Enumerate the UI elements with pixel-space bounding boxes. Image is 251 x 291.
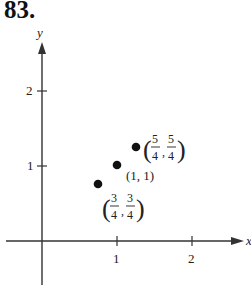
svg-text:): ) — [136, 194, 145, 223]
data-point-5-4 — [132, 143, 141, 152]
svg-text:4: 4 — [152, 149, 158, 163]
svg-text:5: 5 — [168, 132, 174, 146]
data-point-1-1 — [113, 161, 122, 170]
point-label-3-4: ( 3 4 , 3 4 ) — [102, 191, 145, 223]
y-tick-label-2: 2 — [26, 83, 33, 98]
svg-text:4: 4 — [168, 149, 174, 163]
svg-text:4: 4 — [111, 208, 117, 222]
x-tick-label-2: 2 — [188, 251, 195, 266]
point-label-1-1: (1, 1) — [126, 168, 154, 183]
svg-text:(: ( — [143, 135, 152, 164]
svg-text:,: , — [162, 145, 165, 159]
svg-text:): ) — [177, 135, 186, 164]
svg-text:3: 3 — [127, 191, 133, 205]
x-axis-label: x — [245, 233, 251, 248]
data-point-3-4 — [94, 180, 103, 189]
svg-text:5: 5 — [152, 132, 158, 146]
y-tick-label-1: 1 — [27, 158, 34, 173]
svg-text:4: 4 — [127, 208, 133, 222]
coordinate-plot: y x 1 2 1 2 (1, 1) ( 5 4 , 5 4 ) ( 3 4 ,… — [0, 0, 251, 291]
svg-text:3: 3 — [111, 191, 117, 205]
y-axis-arrow-icon — [38, 42, 46, 54]
y-axis-label: y — [35, 25, 43, 40]
x-axis-arrow-icon — [231, 237, 244, 245]
svg-text:(: ( — [102, 194, 111, 223]
svg-text:,: , — [121, 204, 124, 218]
x-tick-label-1: 1 — [113, 251, 120, 266]
point-label-5-4: ( 5 4 , 5 4 ) — [143, 132, 186, 164]
